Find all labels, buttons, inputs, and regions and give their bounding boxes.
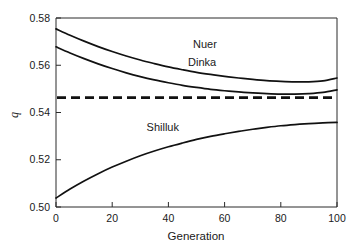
y-axis-title: q bbox=[7, 112, 21, 118]
y-tick-label: 0.58 bbox=[30, 12, 51, 24]
chart-figure: 0.500.520.540.560.58 020406080100 NuerDi… bbox=[0, 0, 352, 250]
y-tick-label: 0.54 bbox=[30, 106, 51, 118]
x-tick-label: 100 bbox=[328, 212, 346, 224]
x-tick-labels: 020406080100 bbox=[53, 212, 346, 224]
data-curves bbox=[56, 29, 337, 198]
y-tick-label: 0.56 bbox=[30, 59, 51, 71]
y-tick-label: 0.50 bbox=[30, 201, 51, 213]
x-axis-title: Generation bbox=[168, 230, 225, 242]
y-tick-label: 0.52 bbox=[30, 153, 51, 165]
x-tick-label: 40 bbox=[163, 212, 175, 224]
series-label-shilluk: Shilluk bbox=[147, 121, 180, 133]
chart-plot-area: 0.500.520.540.560.58 020406080100 NuerDi… bbox=[0, 0, 352, 250]
x-tick-label: 60 bbox=[219, 212, 231, 224]
x-tick-label: 0 bbox=[53, 212, 59, 224]
y-tick-labels: 0.500.520.540.560.58 bbox=[30, 12, 51, 213]
x-tick-label: 80 bbox=[275, 212, 287, 224]
series-label-dinka: Dinka bbox=[188, 56, 217, 68]
curve-shilluk bbox=[56, 122, 337, 198]
series-label-nuer: Nuer bbox=[193, 38, 217, 50]
x-tick-label: 20 bbox=[106, 212, 118, 224]
curve-dinka bbox=[56, 47, 337, 94]
